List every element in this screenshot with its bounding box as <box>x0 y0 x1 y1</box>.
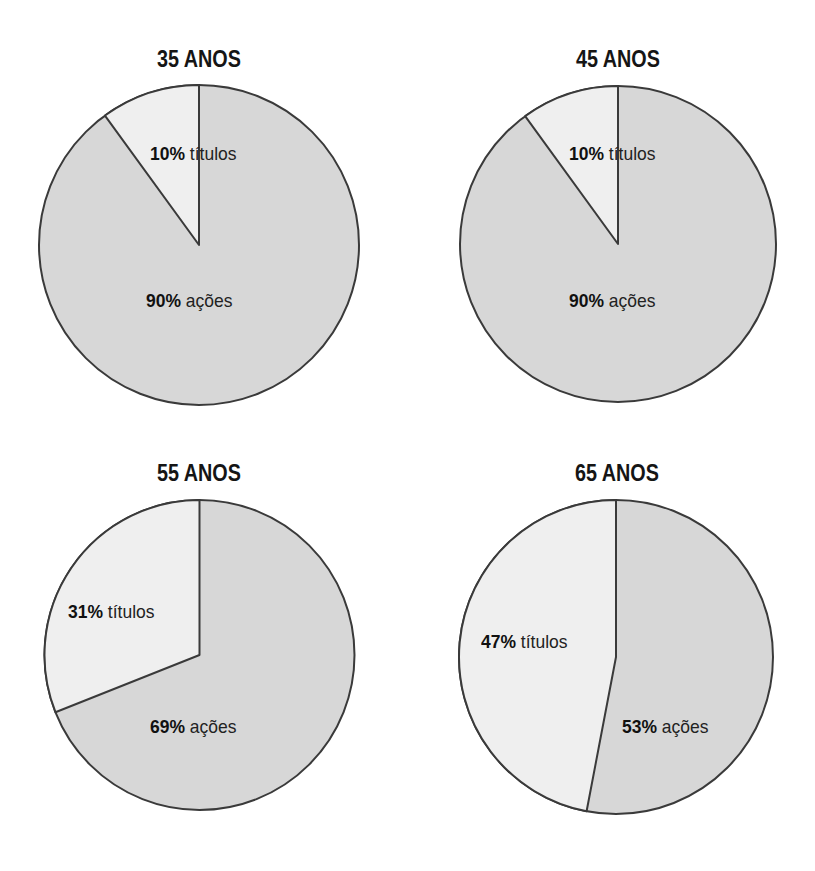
slice-titulos <box>459 500 616 811</box>
label-acoes: 53% ações <box>622 716 708 738</box>
pie-chart-65: 65 ANOS 47% títulos 53% ações <box>0 0 815 871</box>
pie-graphic <box>0 0 815 871</box>
label-titulos: 47% títulos <box>481 631 567 653</box>
